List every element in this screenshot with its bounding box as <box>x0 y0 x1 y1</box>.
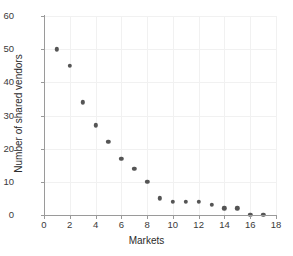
y-axis-tick-label: 50 <box>0 44 14 54</box>
gridline-horizontal <box>44 82 276 83</box>
y-axis-tick-label: 10 <box>0 177 14 187</box>
x-axis-line <box>44 215 277 216</box>
gridline-horizontal <box>44 49 276 50</box>
y-axis-tick-mark <box>41 49 44 50</box>
y-axis-tick-mark <box>41 82 44 83</box>
y-axis-tick-mark <box>41 182 44 183</box>
y-axis-tick-label: 30 <box>0 111 14 121</box>
x-axis-tick-label: 18 <box>261 220 291 230</box>
y-axis-title: Number of shared vendors <box>13 34 24 194</box>
data-point-marker <box>93 123 97 127</box>
y-axis-tick-mark <box>41 16 44 17</box>
data-point-marker <box>55 47 59 51</box>
data-point-marker <box>145 180 149 184</box>
x-axis-title: Markets <box>0 235 293 246</box>
y-axis-tick-mark <box>41 149 44 150</box>
gridline-horizontal <box>44 149 276 150</box>
y-axis-tick-mark <box>41 116 44 117</box>
gridline-horizontal <box>44 182 276 183</box>
y-axis-line <box>44 15 45 216</box>
data-point-marker <box>222 206 226 210</box>
y-axis-tick-label: 40 <box>0 77 14 87</box>
data-point-marker <box>235 206 239 210</box>
data-point-marker <box>171 200 175 204</box>
data-point-marker <box>196 200 200 204</box>
data-point-marker <box>106 140 110 144</box>
data-point-marker <box>68 64 72 68</box>
y-axis-tick-label: 20 <box>0 144 14 154</box>
data-point-marker <box>80 100 84 104</box>
data-point-marker <box>184 200 188 204</box>
y-axis-tick-label: 0 <box>0 210 14 220</box>
scatter-chart-figure: Number of shared vendors Markets 0102030… <box>0 0 293 256</box>
gridline-horizontal <box>44 116 276 117</box>
plot-area <box>44 16 276 215</box>
y-axis-tick-label: 60 <box>0 11 14 21</box>
data-point-marker <box>132 166 136 170</box>
data-point-marker <box>119 156 123 160</box>
gridline-vertical <box>276 16 277 215</box>
data-point-marker <box>209 203 213 207</box>
data-point-marker <box>158 196 162 200</box>
gridline-horizontal <box>44 16 276 17</box>
